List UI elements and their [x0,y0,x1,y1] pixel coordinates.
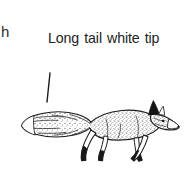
white-tail-tip [22,116,36,135]
dark-ear [149,101,160,116]
far-ear [159,106,165,115]
fox-drawing [14,92,184,172]
fox-illustration-figure: h Long tail white tip [0,0,184,172]
fox-bushy-tail [22,112,94,137]
cropped-edge-text-fragment: h [1,24,9,39]
callout-label-long-tail-white-tip: Long tail white tip [48,31,170,47]
fox-body-group [22,101,180,162]
